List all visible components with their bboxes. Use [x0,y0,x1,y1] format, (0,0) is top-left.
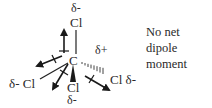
carbon-label: C [69,53,78,68]
no-net-dipole-note: No net dipole moment [146,24,187,72]
left-cl-label: δ- Cl [9,76,35,91]
bond-right-dashed [82,62,103,74]
top-charge-label: δ- [71,1,81,15]
carbon-charge-label: δ+ [95,43,108,57]
note-line-2: dipole [146,40,187,56]
top-cl-label: Cl [70,15,83,30]
bottom-charge-label: δ- [67,93,77,107]
dipole-arrow-down-right [85,75,109,90]
dipole-arrow-left [37,55,62,66]
note-line-1: No net [146,24,187,40]
right-cl-label: Cl δ- [110,72,136,87]
note-line-3: moment [146,56,187,72]
dipole-arrow-up [59,30,69,53]
